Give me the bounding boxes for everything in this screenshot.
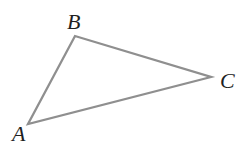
vertex-label-C: C (220, 68, 235, 93)
vertex-label-B: B (67, 9, 80, 34)
triangle-outline (28, 36, 211, 124)
vertex-label-A: A (10, 121, 26, 144)
triangle-svg: A B C (0, 0, 243, 144)
triangle-diagram: A B C (0, 0, 243, 144)
